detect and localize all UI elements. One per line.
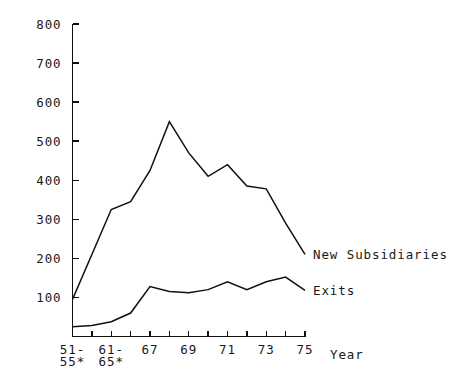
y-axis-tick-label: 400: [36, 173, 61, 188]
x-axis-tick-label: 71: [219, 342, 236, 357]
x-axis-tick-label-second-line: 65*: [99, 354, 124, 369]
series-label-exits: Exits: [313, 283, 355, 298]
x-axis-tick-label: 73: [258, 342, 275, 357]
y-axis-tick-labels: 100200300400500600700800: [36, 17, 61, 305]
y-axis-tick-label: 300: [36, 212, 61, 227]
y-axis-tick-label: 200: [36, 251, 61, 266]
y-axis-tick-label: 800: [36, 17, 61, 32]
x-axis-title: Year: [330, 347, 364, 362]
series-label-new-subsidiaries: New Subsidiaries: [313, 247, 448, 262]
series-line-new-subsidiaries: [73, 122, 306, 300]
x-axis-tick-label-second-line: 55*: [60, 354, 85, 369]
y-axis-tick-label: 600: [36, 95, 61, 110]
y-axis-ticks: [73, 24, 79, 297]
y-axis-tick-label: 700: [36, 56, 61, 71]
x-axis-tick-label: 67: [142, 342, 159, 357]
x-axis-tick-labels: 51-55*61-65*6769717375: [60, 342, 314, 369]
x-axis-ticks: [73, 331, 306, 337]
y-axis-tick-label: 500: [36, 134, 61, 149]
series-line-exits: [73, 277, 306, 327]
x-axis-tick-label: 75: [297, 342, 314, 357]
chart-container: 100200300400500600700800 51-55*61-65*676…: [0, 0, 464, 387]
y-axis-tick-label: 100: [36, 290, 61, 305]
x-axis-tick-label: 69: [180, 342, 197, 357]
line-chart-plot: 100200300400500600700800 51-55*61-65*676…: [0, 0, 464, 387]
